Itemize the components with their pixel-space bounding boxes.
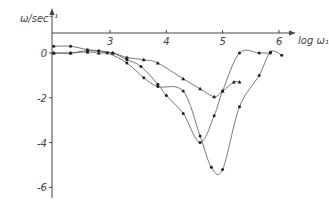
y-tick-label: -6 bbox=[37, 182, 47, 193]
data-point-circle bbox=[221, 90, 224, 93]
data-point-circle bbox=[111, 52, 114, 55]
data-point-circle bbox=[69, 45, 72, 48]
data-point-circle bbox=[258, 52, 261, 55]
data-point-circle bbox=[182, 112, 185, 115]
x-tick-label: 6 bbox=[276, 36, 282, 47]
data-point-circle bbox=[139, 65, 142, 68]
x-tick-label: 3 bbox=[107, 36, 113, 47]
data-point-circle bbox=[69, 52, 72, 55]
data-point-circle bbox=[258, 74, 261, 77]
y-tick-label: 0 bbox=[41, 48, 47, 59]
x-axis-label: log ω₁ bbox=[298, 35, 329, 46]
data-point-triangle bbox=[181, 77, 185, 81]
data-point-circle bbox=[52, 52, 55, 55]
data-point-circle bbox=[165, 94, 168, 97]
data-point-circle bbox=[238, 52, 241, 55]
data-point-circle bbox=[156, 85, 159, 88]
axes: ω/sec⁻¹ log ω₁ bbox=[20, 8, 329, 198]
data-point-circle bbox=[52, 45, 55, 48]
x-tick-label: 5 bbox=[220, 36, 226, 47]
y-tick-label: -2 bbox=[37, 93, 47, 104]
data-point-circle bbox=[280, 54, 283, 57]
series-line-circles-middle bbox=[54, 46, 271, 143]
data-point-circle bbox=[238, 105, 241, 108]
data-point-circle bbox=[86, 49, 89, 52]
y-tick-label: -4 bbox=[37, 138, 47, 149]
data-point-circle bbox=[97, 49, 100, 52]
data-point-circle bbox=[199, 141, 202, 144]
data-point-circle bbox=[213, 114, 216, 117]
data-point-circle bbox=[210, 166, 213, 169]
curves bbox=[54, 46, 282, 175]
series-line-circles-deep bbox=[54, 51, 282, 175]
data-point-circle bbox=[269, 50, 272, 53]
x-axis-arrow-icon bbox=[289, 31, 296, 36]
points bbox=[52, 45, 284, 171]
series-line-triangles bbox=[54, 52, 240, 97]
data-point-circle bbox=[182, 90, 185, 93]
data-point-circle bbox=[125, 62, 128, 65]
data-point-circle bbox=[221, 168, 224, 171]
y-axis-label: ω/sec⁻¹ bbox=[20, 13, 58, 24]
data-point-triangle bbox=[198, 87, 202, 91]
data-point-circle bbox=[106, 52, 109, 55]
data-point-circle bbox=[125, 58, 128, 61]
data-point-circle bbox=[199, 134, 202, 137]
chart: ω/sec⁻¹ log ω₁ 34560-2-4-6 bbox=[0, 0, 329, 205]
data-point-circle bbox=[142, 76, 145, 79]
x-tick-label: 4 bbox=[163, 36, 169, 47]
ticks: 34560-2-4-6 bbox=[37, 30, 282, 193]
